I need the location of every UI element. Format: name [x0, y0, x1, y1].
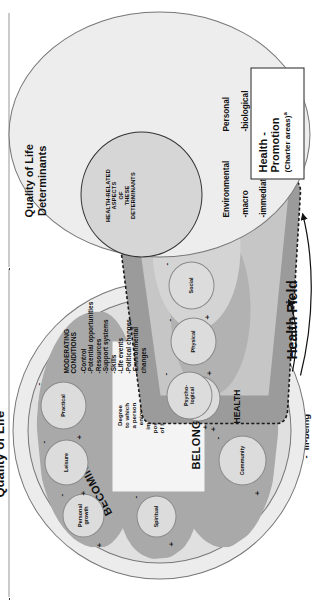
quality-of-life-title: Quality of Life: [0, 410, 6, 497]
group-heading: Environmental: [221, 160, 230, 217]
callout-line2: Promotion: [268, 74, 280, 172]
callout-superscript: a: [281, 112, 287, 115]
bubble-label: Community: [239, 445, 245, 475]
health-title: HEALTH: [232, 389, 241, 423]
moderating-item: -Environmental changes: [131, 243, 146, 373]
bubble-label: Leisure: [63, 452, 69, 471]
sign-minus-community: -: [212, 436, 221, 439]
health-related-aspects-text: HEALTH-RELATED ASPECTS OF THESE DETERMIN…: [104, 143, 135, 247]
moderating-conditions-block: MODERATING CONDITIONS -Control -Potentia…: [62, 243, 146, 373]
moderating-item: -Potential opportunities: [86, 243, 94, 373]
moderating-heading: MODERATING CONDITIONS: [62, 243, 77, 373]
health-field-label: Health Field: [284, 280, 299, 359]
sign-minus-psychological: -: [160, 372, 169, 375]
moderating-item: -Skills: [109, 243, 117, 373]
figure-canvas: Degree to which a person enjoys importan…: [0, 0, 317, 609]
sign-minus-practical: -: [33, 382, 42, 385]
bubble-leisure: Leisure: [44, 439, 88, 485]
bubble-social: Social: [168, 261, 214, 309]
health-related-aspects-circle: [80, 131, 202, 257]
bubble-label: Physical: [190, 330, 196, 352]
group-heading: Personal: [221, 74, 230, 131]
bubble-label: Practical: [60, 394, 66, 416]
group-item: -biological: [240, 74, 249, 131]
sign-minus-leisure: -: [38, 440, 47, 443]
bubble-label: Spiritual: [153, 505, 159, 527]
bubble-personal-growth: Personal growth: [62, 493, 104, 537]
sign-plus-physical: +: [204, 370, 213, 375]
bubble-label: Psycho- logical: [183, 385, 194, 406]
health-promotion-callout: Health - Promotion (Charter areas)a: [250, 67, 304, 179]
bubble-label: Personal growth: [77, 504, 88, 527]
sign-plus-leisure: +: [78, 490, 87, 495]
sign-minus-social: -: [161, 262, 170, 265]
bubble-physical: Physical: [170, 317, 216, 365]
bubble-psychological: Psycho- logical: [166, 371, 212, 419]
callout-line1: Health -: [256, 132, 268, 172]
moderating-item: -Support systems: [101, 243, 109, 373]
sign-minus-spiritual: -: [130, 495, 139, 498]
bubble-community: Community: [218, 435, 266, 485]
sign-plus-community: +: [252, 490, 261, 495]
sign-plus-practical: +: [74, 434, 83, 439]
bubble-spiritual: Spiritual: [136, 495, 176, 537]
sign-plus-social: +: [202, 314, 211, 319]
moderating-item: -Control: [79, 243, 87, 373]
moderating-item: -Life events: [116, 243, 124, 373]
health-field-arrow-long: [300, 213, 311, 375]
moderating-item: -Resources: [94, 243, 102, 373]
moderating-item: -Political changes: [124, 243, 132, 373]
bubble-label: Social: [188, 277, 194, 293]
diagram-root: Degree to which a person enjoys importan…: [0, 0, 317, 609]
sign-plus-personal-growth: +: [94, 542, 103, 547]
sign-plus-psychological: +: [200, 424, 209, 429]
group-item: -macro: [240, 160, 249, 217]
sign-minus-physical: -: [164, 318, 173, 321]
callout-line3: (Charter areas): [282, 115, 291, 172]
sign-plus-spiritual: +: [166, 541, 175, 546]
bubble-practical: Practical: [40, 381, 86, 429]
determinants-title: Quality of Life Determinants: [22, 144, 48, 217]
sign-minus-personal-growth: -: [56, 493, 65, 496]
